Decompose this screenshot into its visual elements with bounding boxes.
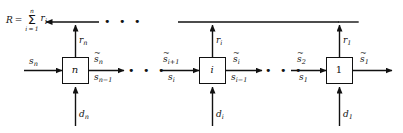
disturbance-label-n: dn <box>79 110 89 119</box>
reward-label-i: ri <box>216 36 222 45</box>
signal-label-stilde-2-input: ~s2 <box>297 55 306 64</box>
signal-label-s-iminus1-output: si−1 <box>231 73 247 82</box>
block-diagram: R = n Σ i = 1 ri n i 1 rn ri r1 dn di d1… <box>0 0 403 133</box>
signal-label-s-i-input: si <box>168 73 175 82</box>
block-label-n: n <box>62 64 88 75</box>
ellipsis-chain-left: • • • <box>128 65 167 76</box>
signal-label-s-n-input: sn <box>29 57 38 66</box>
signal-label-stilde-iplus1-input: ~si+1 <box>163 55 179 64</box>
sigma-group: n Σ i = 1 <box>25 8 38 32</box>
ellipsis-top-rail: • • • <box>104 16 143 27</box>
tilde-accent-group: ~s <box>233 55 238 64</box>
reward-sum-equation: R = n Σ i = 1 ri <box>6 8 47 32</box>
ellipsis-chain-right: • • • <box>265 65 304 76</box>
reward-label-n: rn <box>79 36 88 45</box>
signal-label-stilde-i-output: ~si <box>233 55 240 64</box>
tilde-accent: ~ <box>94 50 98 58</box>
sigma-symbol: Σ <box>28 14 36 26</box>
reward-sum-summand: ri <box>41 13 48 26</box>
tilde-accent-group: ~s <box>163 55 168 64</box>
signal-label-stilde-n-output: ~sn <box>94 55 103 64</box>
tilde-accent-group: ~s <box>360 55 365 64</box>
reward-sum-equals: = <box>15 15 23 25</box>
block-label-1: 1 <box>326 64 352 75</box>
reward-sum-lhs: R <box>6 15 13 25</box>
tilde-accent-group: ~s <box>94 55 99 64</box>
disturbance-label-1: d1 <box>343 110 353 119</box>
reward-label-1: r1 <box>343 36 351 45</box>
tilde-accent: ~ <box>163 50 167 58</box>
signal-label-stilde-1-output: ~s1 <box>360 55 369 64</box>
sigma-lower-limit: i = 1 <box>25 26 38 32</box>
tilde-accent: ~ <box>297 50 301 58</box>
signal-label-s-nminus1-output: sn−1 <box>94 73 112 82</box>
tilde-accent: ~ <box>360 50 364 58</box>
tilde-accent-group: ~s <box>297 55 302 64</box>
block-label-i: i <box>199 64 225 75</box>
tilde-accent: ~ <box>233 50 237 58</box>
disturbance-label-i: di <box>216 110 224 119</box>
